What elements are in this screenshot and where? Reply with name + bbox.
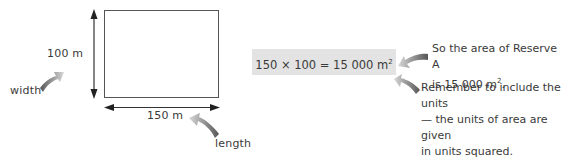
width-pointer-arrow [40, 72, 64, 92]
area-equation: 150 × 100 = 15 000 m2 [252, 49, 396, 75]
length-label: length [215, 137, 251, 150]
width-label: width [10, 84, 41, 97]
width-dimension-arrow [91, 9, 98, 99]
units-note-line2: — the units of area are given [421, 112, 562, 144]
equation-superscript: 2 [388, 58, 392, 66]
area-note-line1: So the area of Reserve A [432, 41, 562, 73]
units-note-line3: in units squared. [421, 144, 562, 160]
units-note-arrow [394, 74, 420, 94]
area-note-arrow [398, 54, 428, 68]
width-value-label: 100 m [47, 47, 83, 60]
units-note: Remember to include the units — the unit… [421, 80, 562, 160]
units-note-line1: Remember to include the units [421, 80, 562, 112]
length-value-label: 150 m [147, 109, 183, 122]
length-pointer-arrow [189, 113, 219, 138]
reserve-rectangle [104, 10, 219, 98]
equation-text: 150 × 100 = 15 000 m [255, 58, 388, 72]
